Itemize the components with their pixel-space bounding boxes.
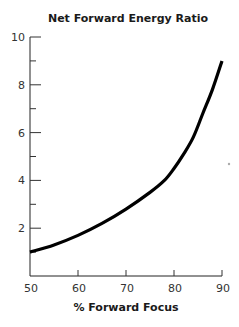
axes: 2468105060708090 xyxy=(11,31,230,295)
x-tick-label: 80 xyxy=(168,282,182,295)
x-tick-label: 60 xyxy=(72,282,86,295)
x-tick-label: 50 xyxy=(24,282,38,295)
plot-area xyxy=(30,61,222,252)
y-tick-label: 2 xyxy=(18,222,25,235)
series-line xyxy=(30,61,222,252)
chart-title: Net Forward Energy Ratio xyxy=(48,12,209,25)
y-tick-label: 4 xyxy=(18,174,25,187)
stray-dot xyxy=(228,163,230,165)
y-tick-label: 8 xyxy=(18,79,25,92)
y-tick-label: 10 xyxy=(11,31,25,44)
x-axis-label: % Forward Focus xyxy=(73,301,179,314)
x-tick-label: 90 xyxy=(216,282,230,295)
x-tick-label: 70 xyxy=(120,282,134,295)
y-tick-label: 6 xyxy=(18,127,25,140)
chart: Net Forward Energy Ratio 246810506070809… xyxy=(0,0,239,327)
